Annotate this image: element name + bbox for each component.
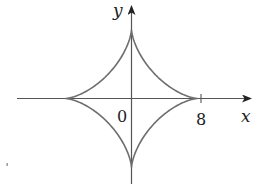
astroid-diagram: y x 0 8 [0,0,268,195]
x-axis-label: x [241,106,251,126]
stray-mark [7,163,8,166]
origin-label: 0 [117,107,127,126]
y-axis-label: y [112,0,123,20]
x-tick-label-8: 8 [196,110,206,129]
